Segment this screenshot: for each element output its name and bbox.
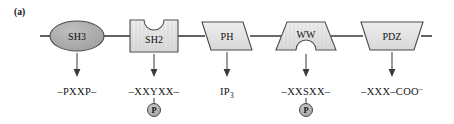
domain-ww-label: WW (297, 29, 316, 40)
domain-sh3[interactable]: SH3 (50, 21, 104, 51)
domain-sh3-label: SH3 (68, 31, 86, 42)
phosphate-sh2-label: P (151, 106, 156, 115)
ligand-label-pdz: –XXX–COO– (360, 84, 423, 97)
domain-ph[interactable]: PH (202, 22, 252, 50)
ligand-arrows (74, 52, 396, 77)
panel-label: (a) (14, 7, 25, 18)
domain-ph-label: PH (221, 31, 234, 42)
arrow-sh2 (151, 54, 158, 77)
domain-pdz[interactable]: PDZ (361, 22, 423, 50)
arrow-ph (224, 52, 231, 77)
phosphate-groups: P P (148, 98, 313, 117)
domain-sh2-label: SH2 (145, 34, 163, 45)
phosphate-sh2: P (148, 98, 161, 117)
ligand-label-sh2: –XXYXX– (128, 86, 180, 97)
domain-sh2[interactable]: SH2 (130, 18, 178, 54)
domain-pdz-label: PDZ (383, 31, 402, 42)
ligand-label-ph: IP3 (220, 86, 234, 100)
arrow-sh3 (74, 53, 81, 77)
arrow-ww (303, 54, 310, 77)
ligand-label-ww: –XXSXX– (281, 86, 331, 97)
domain-ww[interactable]: WW (276, 20, 336, 52)
figure-canvas: (a) SH3 (0, 0, 454, 124)
ligand-labels: –PXXP– –XXYXX– IP3 –XXSXX– –XXX–COO– (56, 84, 422, 100)
ligand-label-pdz-base: –XXX–COO (360, 86, 419, 97)
protein-domain-figure: (a) SH3 (0, 0, 454, 124)
ligand-label-pdz-superscript: – (418, 84, 423, 93)
arrow-pdz (389, 52, 396, 77)
phosphate-ww: P (300, 98, 313, 117)
ligand-label-sh3: –PXXP– (56, 86, 97, 97)
ligand-label-ph-subscript: 3 (230, 91, 234, 100)
ligand-label-ph-base: IP (220, 86, 230, 97)
phosphate-ww-label: P (303, 106, 308, 115)
